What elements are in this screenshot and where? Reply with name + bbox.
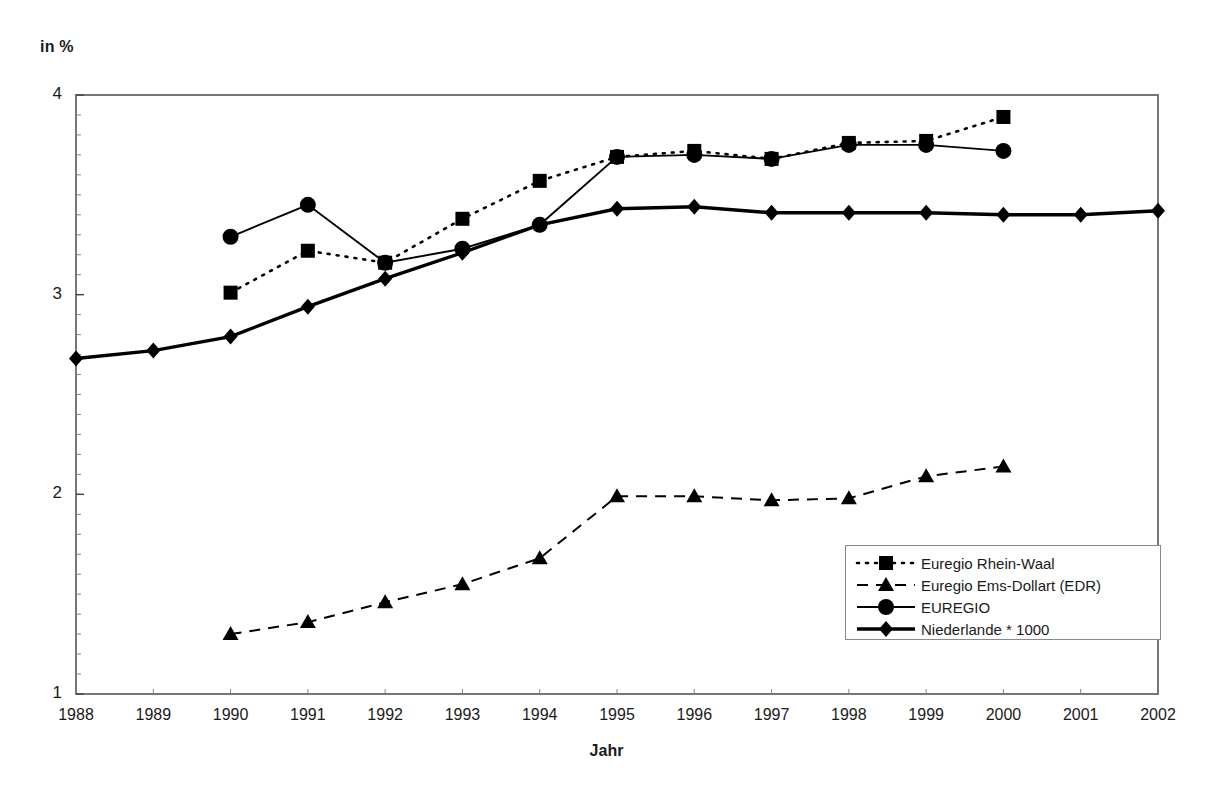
legend-label-1: Euregio Ems-Dollart (EDR): [921, 577, 1101, 594]
legend-marker-square-icon: [855, 553, 917, 573]
chart-legend: Euregio Rhein-WaalEuregio Ems-Dollart (E…: [845, 545, 1161, 640]
legend-item-2[interactable]: EUREGIO: [846, 596, 1160, 618]
y-axis-tick-2: 2: [22, 483, 62, 503]
y-axis-tick-3: 3: [22, 284, 62, 304]
legend-item-0[interactable]: Euregio Rhein-Waal: [846, 552, 1160, 574]
series-3: [69, 199, 1165, 367]
legend-item-1[interactable]: Euregio Ems-Dollart (EDR): [846, 574, 1160, 596]
legend-label-3: Niederlande * 1000: [921, 621, 1049, 638]
legend-label-0: Euregio Rhein-Waal: [921, 555, 1055, 572]
legend-marker-triangle-icon: [855, 575, 917, 595]
legend-marker-circle-icon: [855, 597, 917, 617]
chart-plot-area: [0, 0, 1217, 806]
x-axis-title: Jahr: [0, 742, 1217, 760]
x-axis-title-text: Jahr: [590, 742, 624, 759]
legend-label-2: EUREGIO: [921, 599, 990, 616]
y-axis-tick-4: 4: [22, 84, 62, 104]
legend-marker-diamond-icon: [855, 619, 917, 639]
legend-item-3[interactable]: Niederlande * 1000: [846, 618, 1160, 640]
chart-container: in % 1234 198819891990199119921993199419…: [0, 0, 1217, 806]
y-axis-tick-1: 1: [22, 683, 62, 703]
x-axis-tick-2002: 2002: [1113, 706, 1203, 724]
